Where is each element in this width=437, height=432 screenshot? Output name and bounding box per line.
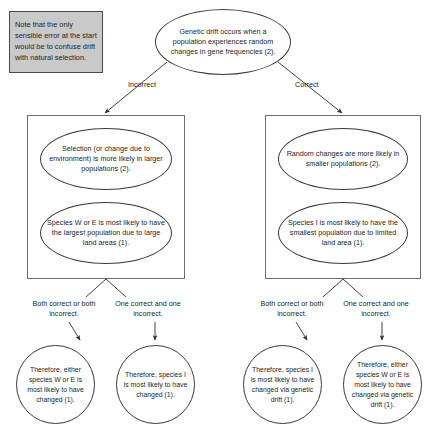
edge-incorrect-split-left xyxy=(86,279,106,297)
edge-incorrect-to-conclusion-1 xyxy=(69,322,80,340)
root-ellipse: Genetic drift occurs when a population e… xyxy=(155,9,291,75)
premise-incorrect-1-text: Selection (or change due to environment)… xyxy=(47,144,165,175)
premise-correct-2: Species I is most likely to have the sma… xyxy=(278,202,408,264)
conclusion-correct-2: Therefore, either species W or E is most… xyxy=(343,345,422,424)
root-ellipse-text: Genetic drift occurs when a population e… xyxy=(162,27,284,58)
split-label-correct-1: Both correct or both incorrect. xyxy=(252,299,332,319)
conclusion-correct-2-text: Therefore, either species W or E is most… xyxy=(349,360,416,410)
split-label-correct-1-text: Both correct or both incorrect. xyxy=(260,299,323,318)
edge-correct-split-right xyxy=(343,279,363,297)
conclusion-correct-1-text: Therefore, species I is most likely to h… xyxy=(249,365,316,405)
diagram-canvas: Note that the only sensible error at the… xyxy=(0,0,437,432)
note-text: Note that the only sensible error at the… xyxy=(15,20,97,64)
conclusion-incorrect-2-text: Therefore, species I is most likely to h… xyxy=(122,370,189,400)
split-label-incorrect-2: One correct and one incorrect. xyxy=(110,299,186,319)
premise-incorrect-2: Species W or E is most likely to have th… xyxy=(40,202,172,264)
conclusion-correct-1: Therefore, species I is most likely to h… xyxy=(243,345,322,424)
split-label-incorrect-1: Both correct or both incorrect. xyxy=(24,299,104,319)
premise-incorrect-2-text: Species W or E is most likely to have th… xyxy=(47,218,165,249)
premise-incorrect-1: Selection (or change due to environment)… xyxy=(40,128,172,190)
edge-correct-split-left xyxy=(323,279,343,297)
conclusion-incorrect-2: Therefore, species I is most likely to h… xyxy=(116,345,195,424)
branch-label-incorrect: Incorrect xyxy=(128,80,156,90)
conclusion-incorrect-1-text: Therefore, either species W or E is most… xyxy=(22,365,89,405)
premise-correct-2-text: Species I is most likely to have the sma… xyxy=(285,218,401,249)
premise-correct-1-text: Random changes are more likely in smalle… xyxy=(285,149,401,169)
premise-correct-1: Random changes are more likely in smalle… xyxy=(278,128,408,190)
conclusion-incorrect-1: Therefore, either species W or E is most… xyxy=(16,345,95,424)
edge-incorrect-split-right xyxy=(106,279,126,297)
split-label-correct-2-text: One correct and one incorrect. xyxy=(343,299,409,318)
split-label-correct-2: One correct and one incorrect. xyxy=(338,299,414,319)
note-box: Note that the only sensible error at the… xyxy=(9,11,103,73)
split-label-incorrect-1-text: Both correct or both incorrect. xyxy=(32,299,95,318)
branch-label-correct: Correct xyxy=(295,80,319,90)
split-label-incorrect-2-text: One correct and one incorrect. xyxy=(115,299,181,318)
edge-correct-to-conclusion-1 xyxy=(296,322,307,340)
